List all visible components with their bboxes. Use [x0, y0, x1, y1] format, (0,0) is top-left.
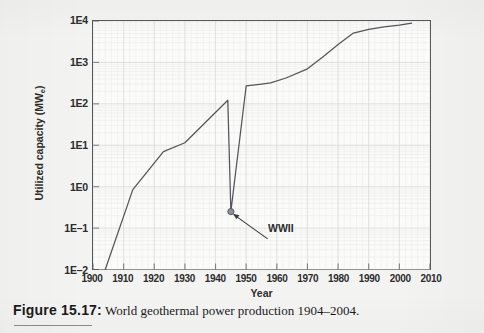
- figure-root: 1E–21E–11E01E11E21E31E4 Utilized capacit…: [0, 0, 484, 333]
- caption-rule: [14, 325, 92, 326]
- y-axis-tick-label: 1E–1: [64, 222, 88, 234]
- x-axis-tick-label: 1960: [266, 273, 287, 284]
- y-axis-tick-label: 1E2: [70, 97, 88, 109]
- x-axis-tick-label: 2010: [420, 273, 441, 284]
- x-axis-tick-label: 1920: [143, 273, 164, 284]
- y-axis-title-base: Utilized capacity (MW: [33, 93, 45, 200]
- chart-block: 1E–21E–11E01E11E21E31E4 Utilized capacit…: [0, 0, 484, 296]
- x-axis-tick-label: 1900: [81, 273, 102, 284]
- y-axis-tick-label: 1E0: [70, 181, 88, 193]
- x-axis-tick-label: 1970: [297, 273, 318, 284]
- y-axis-tick-label: 1E3: [70, 56, 88, 68]
- annotation-wwii-label: WWII: [268, 222, 294, 234]
- y-axis-title: Utilized capacity (MWe): [33, 63, 45, 223]
- x-axis-tick-label: 1950: [236, 273, 257, 284]
- x-axis-tick-label: 1910: [112, 273, 133, 284]
- x-axis-tick-label: 1930: [174, 273, 195, 284]
- x-axis-title: Year: [92, 287, 431, 299]
- y-axis-tick-label: 1E1: [70, 139, 88, 151]
- x-axis-tick-label: 1980: [328, 273, 349, 284]
- data-series-layer: [93, 21, 430, 270]
- figure-caption-text: World geothermal power production 1904–2…: [102, 303, 359, 318]
- x-axis-tick-label: 1990: [359, 273, 380, 284]
- plot-area: [92, 20, 431, 270]
- figure-caption: Figure 15.17: World geothermal power pro…: [13, 302, 473, 319]
- y-axis-tick-label: 1E4: [70, 14, 88, 26]
- y-axis-title-subscript: e: [38, 89, 47, 93]
- y-axis-tick-labels: 1E–21E–11E01E11E21E31E4: [44, 20, 88, 270]
- figure-caption-label: Figure 15.17:: [13, 302, 102, 318]
- x-axis-tick-label: 1940: [205, 273, 226, 284]
- x-axis-tick-label: 2000: [390, 273, 411, 284]
